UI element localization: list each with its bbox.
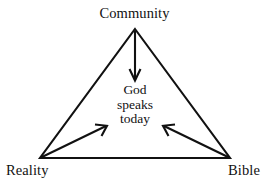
vertex-label-community: Community (0, 6, 269, 21)
vertex-label-bible: Bible (228, 163, 260, 178)
center-text-block: God speaks today (95, 83, 175, 127)
center-text-line-3: today (95, 112, 175, 127)
vertex-label-reality: Reality (6, 163, 49, 178)
community-to-center-arrow (130, 31, 141, 81)
diagram-canvas: Community Reality Bible God speaks today (0, 0, 269, 186)
center-text-line-1: God (95, 83, 175, 98)
center-text-line-2: speaks (95, 98, 175, 113)
